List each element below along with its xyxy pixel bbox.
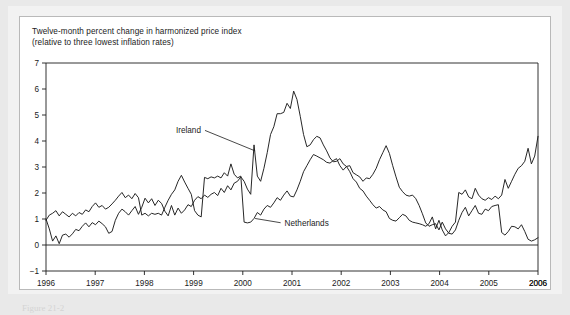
figure-panel: Twelve-month percent change in harmonize… [19,16,551,290]
x-axis-tick-label: 2001 [283,279,302,288]
figure-caption: Figure 21-2 [22,303,64,313]
y-axis-tick-label: 6 [34,85,39,94]
x-axis-tick-label: 1997 [86,279,105,288]
x-axis-tick-label: 1996 [37,279,56,288]
plot-frame [46,63,538,271]
line-chart: −101234567199619971998199920002001200220… [20,17,552,291]
x-axis-tick-label: 2003 [381,279,400,288]
y-axis-tick-label: 1 [34,215,39,224]
series-label-netherlands: Netherlands [285,219,329,228]
x-axis-tick-label: 2002 [332,279,351,288]
y-axis-tick-label: 4 [34,137,39,146]
y-axis-tick-label: 0 [34,241,39,250]
y-axis-tick-label: 3 [34,163,39,172]
x-axis-tick-label: 2004 [430,279,449,288]
annotation-leader-line [205,130,255,150]
y-axis-tick-label: 7 [34,59,39,68]
annotation-leader-line [255,218,281,222]
y-axis-tick-label: 5 [34,111,39,120]
x-axis-end-label: 2006 [529,279,548,288]
series-label-ireland: Ireland [176,126,201,135]
x-axis-tick-label: 2005 [480,279,499,288]
x-axis-tick-label: 2000 [234,279,253,288]
x-axis-tick-label: 1998 [135,279,154,288]
chart-axes: −101234567199619971998199920002001200220… [30,59,548,288]
figure-container: Twelve-month percent change in harmonize… [0,0,570,315]
y-axis-tick-label: 2 [34,189,39,198]
y-axis-tick-label: −1 [30,267,40,276]
x-axis-tick-label: 1999 [184,279,203,288]
